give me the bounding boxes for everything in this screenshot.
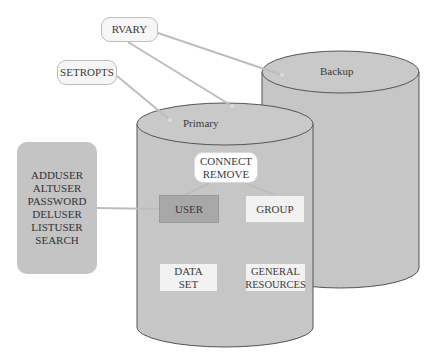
- user-profile-box: USER: [159, 195, 219, 223]
- connect-remove-box: CONNECT REMOVE: [194, 152, 258, 183]
- command-password: PASSWORD: [28, 195, 87, 208]
- rvary-to-backup-line: [158, 33, 282, 75]
- backup-label: Backup: [320, 65, 354, 77]
- primary-cylinder: [137, 103, 313, 347]
- group-profile-box: GROUP: [245, 195, 305, 223]
- dataset-label-line2: SET: [179, 278, 199, 291]
- user-label: USER: [175, 203, 203, 216]
- dataset-profile-box: DATA SET: [159, 263, 218, 292]
- rvary-to-primary-line: [128, 42, 232, 106]
- user-commands-panel: ADDUSER ALTUSER PASSWORD DELUSER LISTUSE…: [17, 142, 97, 274]
- command-adduser: ADDUSER: [31, 169, 83, 182]
- group-label: GROUP: [256, 203, 293, 216]
- general-resources-profile-box: GENERAL RESOURCES: [245, 263, 306, 292]
- command-deluser: DELUSER: [32, 208, 82, 221]
- command-altuser: ALTUSER: [33, 182, 82, 195]
- primary-label: Primary: [183, 117, 218, 129]
- general-label-line2: RESOURCES: [245, 278, 306, 291]
- setropts-anchor-dot: [168, 118, 172, 122]
- command-search: SEARCH: [35, 234, 78, 247]
- command-listuser: LISTUSER: [31, 221, 82, 234]
- setropts-label: SETROPTS: [60, 66, 114, 79]
- primary-anchor-dot: [230, 104, 234, 108]
- rvary-callout: RVARY: [101, 17, 158, 42]
- setropts-to-primary-line: [117, 76, 170, 120]
- rvary-label: RVARY: [112, 23, 148, 36]
- backup-anchor-dot: [280, 73, 284, 77]
- commands-to-user-line: [97, 208, 159, 209]
- dataset-label-line1: DATA: [174, 265, 202, 278]
- general-label-line1: GENERAL: [251, 265, 300, 278]
- setropts-callout: SETROPTS: [57, 60, 117, 85]
- remove-label: REMOVE: [203, 168, 249, 181]
- connect-label: CONNECT: [200, 155, 252, 168]
